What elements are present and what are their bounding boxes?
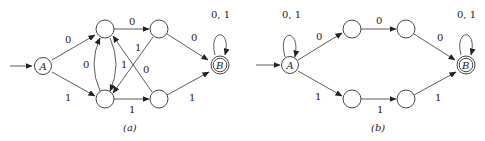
edge-label: 0 (129, 16, 135, 27)
edge-label: 1 (377, 104, 383, 115)
edge-label: 1 (121, 59, 127, 70)
edge-a-q3-B (167, 34, 208, 60)
state-b-p1 (343, 20, 361, 38)
state-label-a-B: B (215, 60, 223, 71)
edge-a-q1-q2 (110, 38, 116, 91)
edge-b-p2-B (414, 34, 455, 60)
edge-b-B-loop (460, 35, 473, 55)
caption-a: (a) (123, 122, 137, 133)
edge-label: 0 (83, 59, 89, 70)
state-b-p3 (343, 90, 361, 108)
state-a-q2 (96, 90, 114, 108)
state-a-q4 (150, 90, 168, 108)
edge-label: 1 (129, 104, 135, 115)
diagram-b: A B 0, 1 0 0 0 1 1 1 0, 1 (b) (256, 9, 476, 133)
state-a-q1 (96, 20, 114, 38)
edge-label: 0 (316, 31, 322, 42)
state-b-p2 (397, 20, 415, 38)
edge-label: 1 (189, 92, 195, 103)
state-b-p4 (397, 90, 415, 108)
state-a-q3 (150, 20, 168, 38)
edge-b-A-loop (283, 35, 296, 57)
edge-label: 1 (135, 42, 141, 53)
diagram-a: A B 0 1 0 0 1 1 0 1 0 1 0, 1 (a) (10, 9, 230, 133)
state-label-b-B: B (461, 60, 469, 71)
edge-label: 0 (437, 32, 443, 43)
state-label-b-A: A (286, 60, 294, 71)
state-label-a-A: A (39, 61, 47, 72)
edge-label: 0, 1 (211, 9, 230, 20)
edge-label: 1 (315, 91, 321, 102)
edge-a-q4-B (167, 72, 209, 95)
edge-label: 0, 1 (282, 9, 301, 20)
edge-label: 0 (191, 32, 197, 43)
edge-a-B-loop (214, 35, 227, 55)
edge-label: 0 (376, 15, 382, 26)
edge-a-A-q1 (52, 35, 95, 60)
edge-a-A-q2 (52, 72, 95, 96)
edge-label: 1 (65, 92, 71, 103)
automata-figure: A B 0 1 0 0 1 1 0 1 0 1 0, 1 (a) (0, 0, 485, 141)
edge-label: 0, 1 (457, 9, 476, 20)
edge-label: 0 (65, 34, 71, 45)
caption-b: (b) (371, 122, 385, 133)
edge-label: 1 (435, 92, 441, 103)
diagram-svg: A B 0 1 0 0 1 1 0 1 0 1 0, 1 (a) (0, 0, 485, 141)
edge-a-q2-q1 (94, 38, 100, 91)
edge-label: 0 (143, 64, 149, 75)
